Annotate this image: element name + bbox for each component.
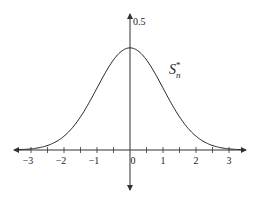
x-tick-label: 1 <box>161 155 166 166</box>
x-tick-label: −2 <box>56 155 67 166</box>
x-tick-label: 3 <box>227 155 232 166</box>
normal-density-chart: −3−2−10123 0.5 Sn* <box>0 0 258 198</box>
x-axis-tick-labels: −3−2−10123 <box>23 155 232 166</box>
y-tick-label-0-5: 0.5 <box>133 16 146 27</box>
x-tick-label: −3 <box>23 155 34 166</box>
x-tick-label: −1 <box>89 155 100 166</box>
series-label-s-n-star: Sn* <box>169 60 181 80</box>
x-tick-label: 0 <box>131 155 136 166</box>
x-tick-label: 2 <box>194 155 199 166</box>
